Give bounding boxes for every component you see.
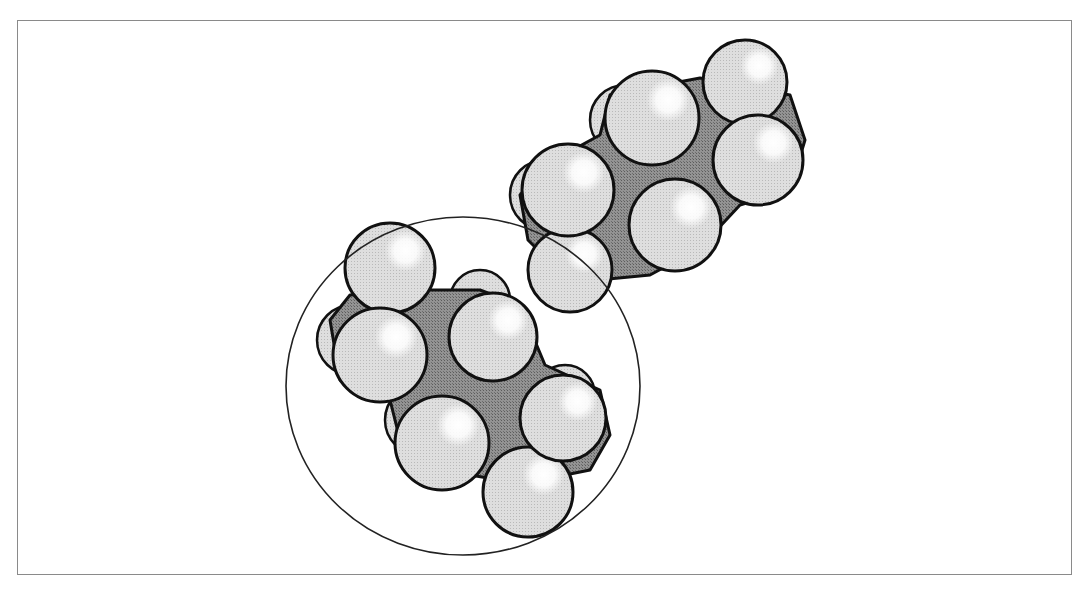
molecule-illustration — [0, 0, 1088, 590]
hydrogen-atom — [629, 179, 721, 271]
hydrogen-atom — [520, 375, 606, 461]
hydrogen-atom — [528, 228, 612, 312]
hydrogen-atom — [333, 308, 427, 402]
hydrogen-atom — [605, 71, 699, 165]
hydrogen-atom — [449, 293, 537, 381]
hydrogen-atom — [703, 40, 787, 124]
upper-butane-molecule — [510, 40, 805, 312]
hydrogen-atom — [395, 396, 489, 490]
hydrogen-atom — [345, 223, 435, 313]
hydrogen-atom — [522, 144, 614, 236]
hydrogen-atom — [713, 115, 803, 205]
